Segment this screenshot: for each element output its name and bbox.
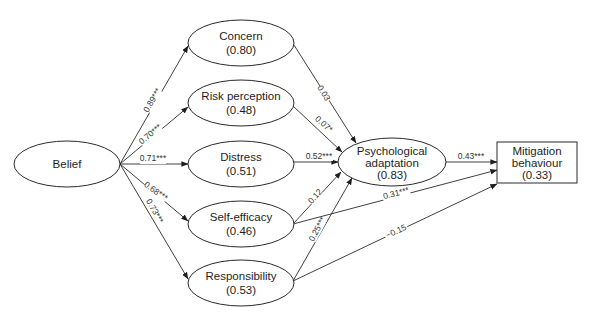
node-mitigation-label-line2: behaviour — [512, 157, 563, 169]
node-self-efficacy: Self-efficacy (0.46) — [188, 201, 294, 247]
edge-label-selfefficacy-mitigation: 0.31*** — [382, 185, 411, 202]
edge-belief-concern: 0.89*** — [120, 46, 188, 164]
edge-label-distress-psych: 0.52*** — [306, 151, 333, 161]
edge-risk-psych: 0.07* — [293, 106, 342, 152]
node-psych-value: (0.83) — [377, 169, 407, 181]
node-risk-perception: Risk perception (0.48) — [188, 80, 294, 126]
node-psychological-adaptation: Psychological adaptation (0.83) — [338, 138, 446, 186]
node-belief-label: Belief — [53, 158, 83, 170]
edge-distress-psych: 0.52*** — [294, 151, 338, 162]
node-responsibility-value: (0.53) — [226, 284, 256, 296]
edge-label-belief-distress: 0.71*** — [140, 153, 167, 163]
node-concern-value: (0.80) — [226, 44, 256, 56]
node-psych-label-line1: Psychological — [357, 145, 427, 157]
edge-responsibility-mitigation: −0.15 — [293, 184, 497, 281]
edge-label-belief-risk: 0.70*** — [137, 121, 164, 146]
edge-label-selfefficacy-psych: 0.12 — [306, 186, 325, 205]
node-distress-label: Distress — [220, 151, 262, 163]
node-distress: Distress (0.51) — [188, 141, 294, 187]
node-responsibility-label: Responsibility — [206, 270, 277, 282]
node-mitigation-label-line1: Mitigation — [512, 145, 561, 157]
edge-belief-distress: 0.71*** — [120, 153, 188, 164]
node-concern: Concern (0.80) — [188, 20, 294, 66]
edge-label-risk-psych: 0.07* — [313, 114, 335, 135]
node-responsibility: Responsibility (0.53) — [188, 260, 294, 306]
node-concern-label: Concern — [219, 30, 262, 42]
node-selfefficacy-label: Self-efficacy — [210, 211, 273, 223]
node-risk-label: Risk perception — [201, 90, 280, 102]
edge-label-psych-mitigation: 0.43*** — [458, 151, 485, 161]
edge-psych-mitigation: 0.43*** — [446, 151, 497, 162]
edge-label-responsibility-mitigation: −0.15 — [384, 222, 408, 240]
edge-label-responsibility-psych: 0.25*** — [306, 214, 328, 243]
edge-selfefficacy-psych: 0.12 — [293, 172, 341, 224]
edge-label-concern-psych: 0.03 — [315, 83, 332, 103]
edge-label-belief-concern: 0.89*** — [141, 85, 163, 114]
node-mitigation-behaviour: Mitigation behaviour (0.33) — [497, 142, 577, 183]
node-mitigation-value: (0.33) — [522, 169, 552, 181]
node-psych-label-line2: adaptation — [365, 157, 419, 169]
path-diagram: 0.89*** 0.70*** 0.71*** 0.68*** 0.73*** … — [0, 0, 592, 317]
node-selfefficacy-value: (0.46) — [226, 225, 256, 237]
node-risk-value: (0.48) — [226, 104, 256, 116]
edge-belief-responsibility: 0.73*** — [120, 164, 188, 279]
node-belief: Belief — [14, 141, 120, 187]
node-distress-value: (0.51) — [226, 165, 256, 177]
